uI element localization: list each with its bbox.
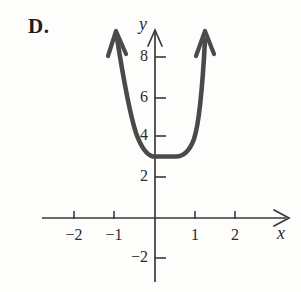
y-axis-label: y [139,14,147,35]
y-tick-label-4: 4 [124,126,148,144]
graph-figure: D. y x 8 6 4 2 −2 −2 −1 1 2 [0,0,301,292]
x-tick-label-1: 1 [181,226,209,244]
y-tick-label-8: 8 [124,47,148,65]
x-tick-label-minus1: −1 [100,226,128,244]
x-axis-label: x [277,223,285,244]
y-tick-label-minus2: −2 [118,248,148,266]
x-tick-label-2: 2 [221,226,249,244]
x-tick-label-minus2: −2 [60,226,88,244]
graph-canvas [0,0,301,292]
y-tick-label-2: 2 [124,167,148,185]
y-tick-label-6: 6 [124,88,148,106]
panel-label: D. [28,14,49,39]
